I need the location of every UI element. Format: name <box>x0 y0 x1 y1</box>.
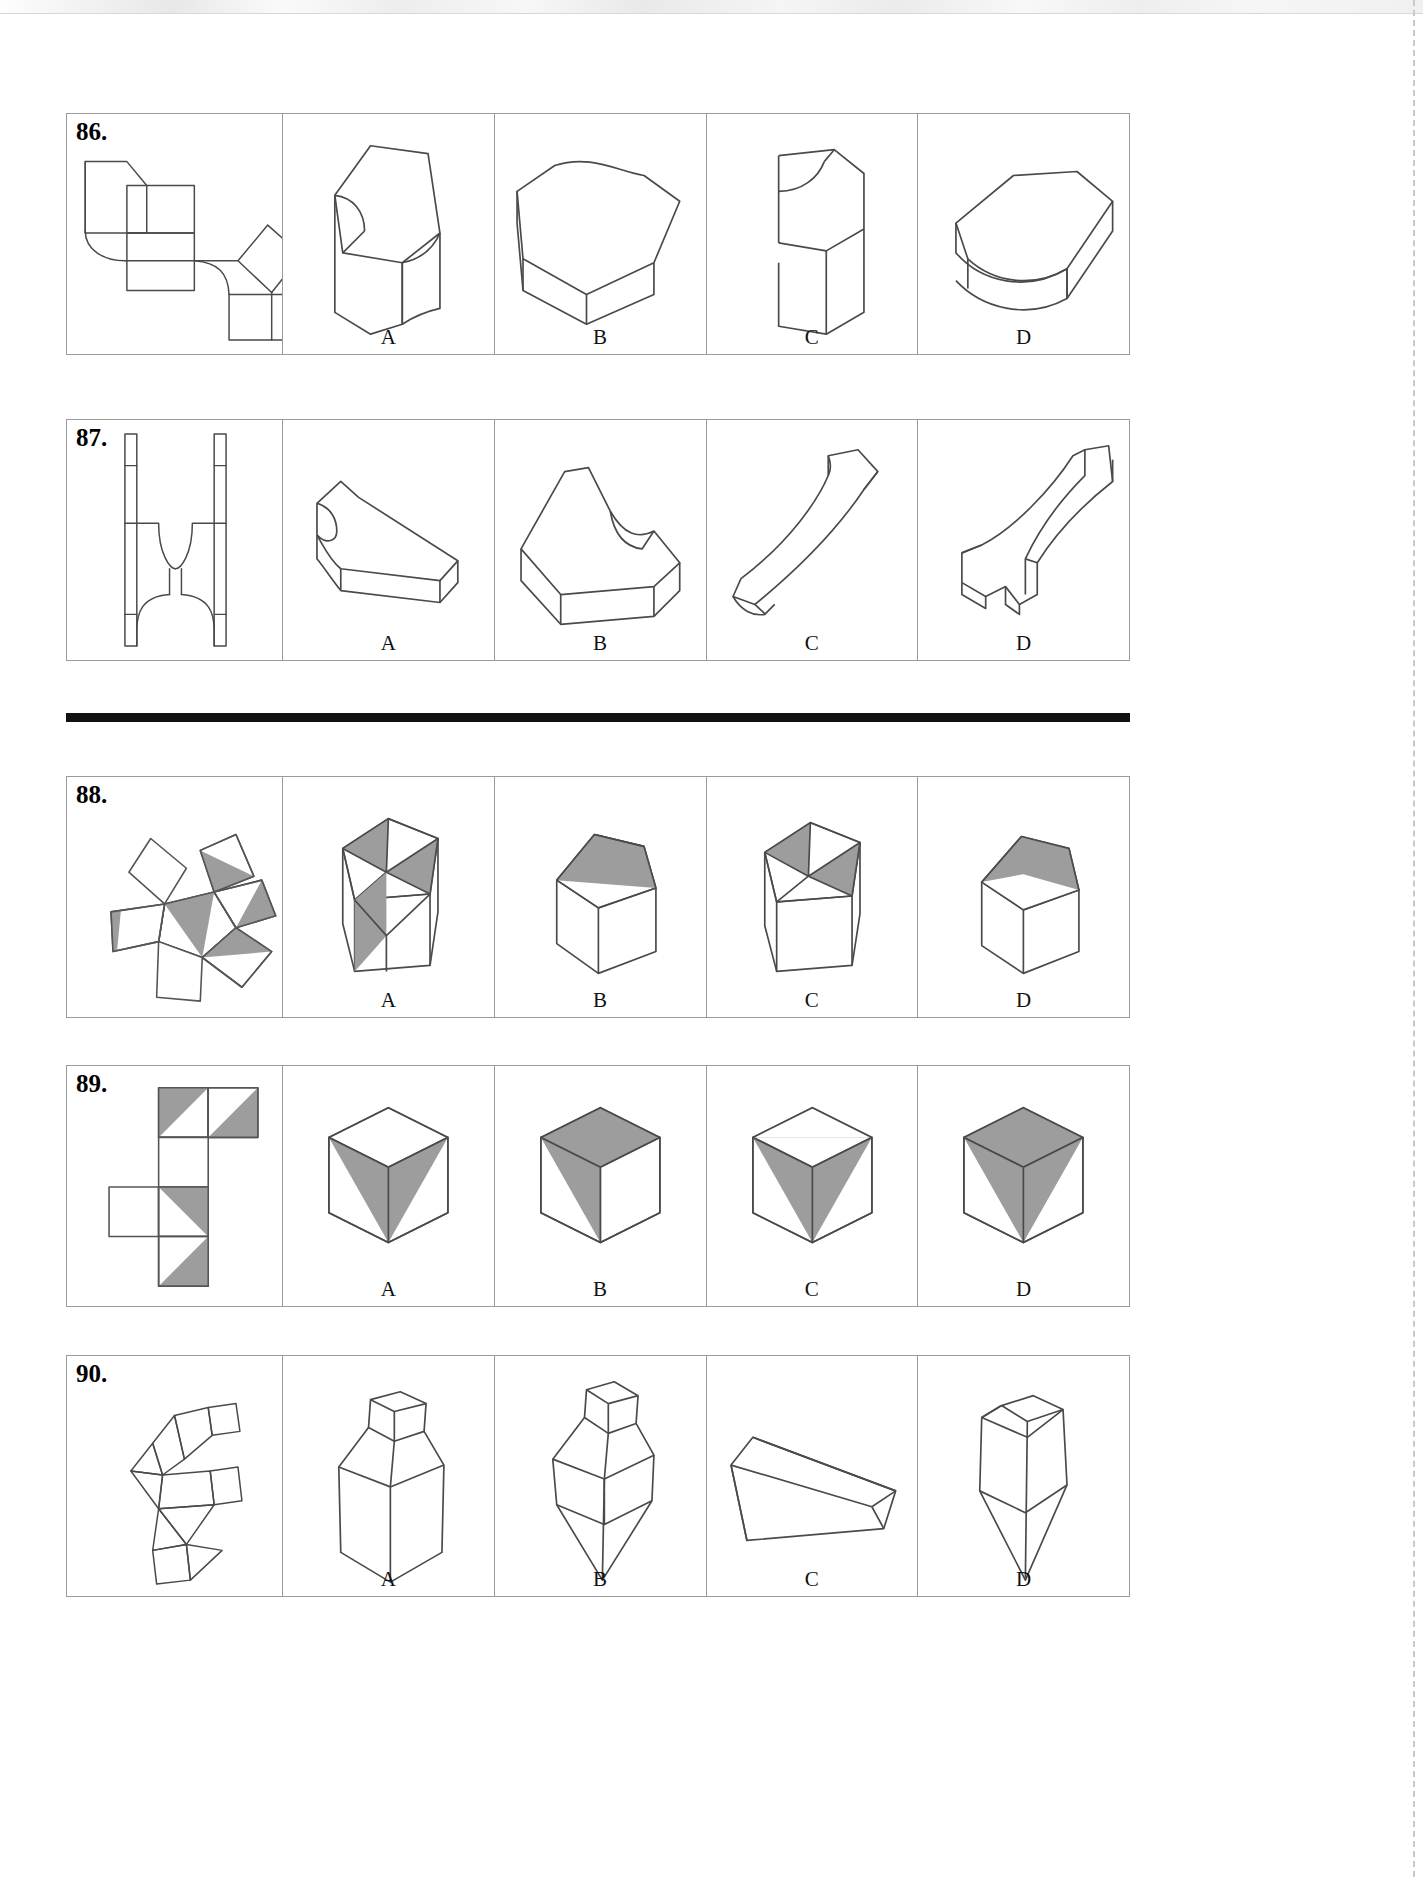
problem-86-stem: 86. <box>67 114 283 354</box>
problem-89-option-d[interactable]: D <box>918 1066 1129 1306</box>
problem-86-option-a-label: A <box>283 325 494 350</box>
problem-86-option-b-figure <box>495 114 706 354</box>
problem-88-option-b-figure <box>495 777 706 1017</box>
problem-89-option-c-figure <box>707 1066 918 1306</box>
problem-86-option-b[interactable]: B <box>495 114 707 354</box>
problem-87-option-c-figure <box>707 420 918 660</box>
problem-86-option-c[interactable]: C <box>707 114 919 354</box>
problem-88-option-c-label: C <box>707 988 918 1013</box>
problem-86-option-a[interactable]: A <box>283 114 495 354</box>
problem-89-option-c[interactable]: C <box>707 1066 919 1306</box>
problem-87-option-c[interactable]: C <box>707 420 919 660</box>
problem-88-option-c[interactable]: C <box>707 777 919 1017</box>
problem-86-option-a-figure <box>283 114 494 354</box>
problem-86-option-d-label: D <box>918 325 1129 350</box>
problem-90-option-c-figure <box>707 1356 918 1596</box>
problem-90-option-b[interactable]: B <box>495 1356 707 1596</box>
problem-88-option-a-label: A <box>283 988 494 1013</box>
problem-86-option-b-label: B <box>495 325 706 350</box>
problem-88-option-d-figure <box>918 777 1129 1017</box>
problem-87-stem: 87. <box>67 420 283 660</box>
problem-86-figure <box>67 114 282 354</box>
problem-87-option-b-figure <box>495 420 706 660</box>
problem-row-89: 89. <box>66 1065 1130 1307</box>
problem-88-stem: 88. <box>67 777 283 1017</box>
page-perforation-line <box>1413 0 1415 1877</box>
problem-88-option-d[interactable]: D <box>918 777 1129 1017</box>
problem-89-option-b-figure <box>495 1066 706 1306</box>
problem-90-option-d-figure <box>918 1356 1129 1596</box>
problem-90-option-a-figure <box>283 1356 494 1596</box>
problem-87-option-d-label: D <box>918 631 1129 656</box>
problem-89-option-d-figure <box>918 1066 1129 1306</box>
scan-top-edge <box>0 0 1423 14</box>
problem-88-figure <box>67 777 282 1017</box>
problem-90-option-d[interactable]: D <box>918 1356 1129 1596</box>
problem-89-option-d-label: D <box>918 1277 1129 1302</box>
problem-87-option-a[interactable]: A <box>283 420 495 660</box>
problem-90-figure <box>67 1356 282 1596</box>
problem-90-option-d-label: D <box>918 1567 1129 1592</box>
section-separator-rule <box>66 713 1130 722</box>
problem-88-option-a-figure <box>283 777 494 1017</box>
problem-86-option-d-figure <box>918 114 1129 354</box>
problem-90-option-b-label: B <box>495 1567 706 1592</box>
problem-87-option-a-figure <box>283 420 494 660</box>
problem-90-stem: 90. <box>67 1356 283 1596</box>
problem-88-option-b-label: B <box>495 988 706 1013</box>
problem-87-option-b-label: B <box>495 631 706 656</box>
problem-90-option-a[interactable]: A <box>283 1356 495 1596</box>
problem-row-90: 90. <box>66 1355 1130 1597</box>
problem-89-option-b[interactable]: B <box>495 1066 707 1306</box>
problem-88-option-c-figure <box>707 777 918 1017</box>
problem-87-option-d-figure <box>918 420 1129 660</box>
test-page: 86. <box>0 0 1423 1877</box>
problem-row-88: 88. <box>66 776 1130 1018</box>
problem-90-option-b-figure <box>495 1356 706 1596</box>
problem-89-option-a-figure <box>283 1066 494 1306</box>
problem-90-option-c-label: C <box>707 1567 918 1592</box>
problem-89-option-b-label: B <box>495 1277 706 1302</box>
problem-87-option-c-label: C <box>707 631 918 656</box>
problem-87-option-b[interactable]: B <box>495 420 707 660</box>
problem-89-option-a[interactable]: A <box>283 1066 495 1306</box>
problem-89-option-a-label: A <box>283 1277 494 1302</box>
problem-87-figure <box>67 420 282 660</box>
problem-86-option-d[interactable]: D <box>918 114 1129 354</box>
problem-row-87: 87. <box>66 419 1130 661</box>
problem-87-option-a-label: A <box>283 631 494 656</box>
problem-89-figure <box>67 1066 282 1306</box>
problem-87-option-d[interactable]: D <box>918 420 1129 660</box>
problem-88-option-d-label: D <box>918 988 1129 1013</box>
problem-89-stem: 89. <box>67 1066 283 1306</box>
problem-86-option-c-label: C <box>707 325 918 350</box>
problem-row-86: 86. <box>66 113 1130 355</box>
problem-86-option-c-figure <box>707 114 918 354</box>
problem-88-option-a[interactable]: A <box>283 777 495 1017</box>
problem-89-option-c-label: C <box>707 1277 918 1302</box>
problem-90-option-a-label: A <box>283 1567 494 1592</box>
problem-90-option-c[interactable]: C <box>707 1356 919 1596</box>
problem-88-option-b[interactable]: B <box>495 777 707 1017</box>
